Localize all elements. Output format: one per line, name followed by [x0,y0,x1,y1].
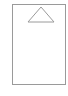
triangle-up-icon [13,5,67,86]
card-frame [12,4,66,85]
